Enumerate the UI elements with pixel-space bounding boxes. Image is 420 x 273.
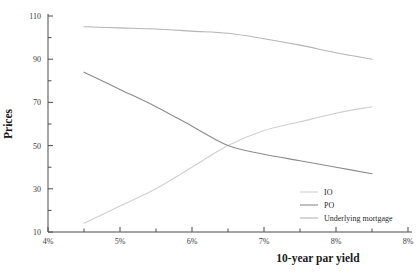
y-axis: 1030507090110	[29, 12, 53, 237]
y-tick-label: 10	[33, 228, 41, 237]
x-axis: 4%5%6%7%8%8%	[43, 227, 414, 246]
chart-figure: 1030507090110 4%5%6%7%8%8% Prices 10-yea…	[0, 0, 420, 273]
y-tick-label: 50	[33, 142, 41, 151]
y-axis-title: Prices	[2, 108, 14, 139]
series-line-underlying-mortgage	[84, 27, 372, 59]
series-line-po	[84, 72, 372, 174]
x-tick-label: 4%	[43, 237, 54, 246]
x-axis-tick-labels: 4%5%6%7%8%8%	[43, 237, 414, 246]
chart-legend: IOPOUnderlying mortgage	[300, 188, 393, 223]
line-chart-canvas: 1030507090110 4%5%6%7%8%8% Prices 10-yea…	[0, 0, 420, 273]
x-tick-label: 8%	[403, 237, 414, 246]
legend-label-underlying-mortgage: Underlying mortgage	[324, 214, 393, 223]
x-tick-label: 7%	[259, 237, 270, 246]
y-tick-label: 70	[33, 98, 41, 107]
y-tick-label: 110	[29, 12, 41, 21]
y-tick-label: 30	[33, 185, 41, 194]
x-tick-label: 5%	[115, 237, 126, 246]
y-tick-label: 90	[33, 55, 41, 64]
y-axis-tick-labels: 1030507090110	[29, 12, 41, 237]
legend-label-io: IO	[324, 188, 333, 197]
x-tick-label: 8%	[331, 237, 342, 246]
y-axis-minor-ticks	[48, 38, 52, 211]
x-axis-title: 10-year par yield	[276, 252, 360, 265]
x-axis-minor-ticks	[84, 229, 372, 233]
legend-label-po: PO	[324, 201, 334, 210]
x-tick-label: 6%	[187, 237, 198, 246]
